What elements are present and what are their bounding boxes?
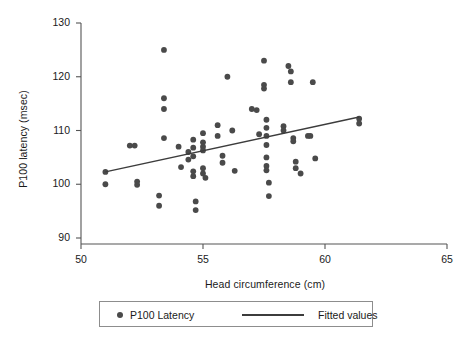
data-point xyxy=(176,144,182,150)
plot-axes xyxy=(81,23,447,244)
data-point xyxy=(266,193,272,199)
data-point xyxy=(232,168,238,174)
data-point xyxy=(103,181,109,187)
y-tick-label: 100 xyxy=(40,177,70,189)
data-point xyxy=(293,159,299,165)
x-axis-label: Head circumference (cm) xyxy=(150,278,380,290)
data-point-group xyxy=(103,47,363,213)
data-point xyxy=(249,106,255,112)
x-tick-label: 60 xyxy=(310,253,340,265)
data-point xyxy=(307,133,313,139)
data-point xyxy=(200,165,206,171)
data-point xyxy=(161,135,167,141)
data-point xyxy=(193,199,199,205)
x-axis-ticks xyxy=(81,244,447,249)
data-point xyxy=(286,63,292,69)
data-point xyxy=(229,128,235,134)
data-point xyxy=(220,153,226,159)
data-point xyxy=(298,171,304,177)
data-point xyxy=(161,95,167,101)
data-point xyxy=(203,175,209,181)
x-tick-label: 65 xyxy=(432,253,462,265)
data-point xyxy=(254,107,260,113)
data-point xyxy=(225,74,231,80)
data-point xyxy=(310,79,316,85)
y-axis-ticks xyxy=(76,23,81,238)
data-point xyxy=(264,117,270,123)
data-point xyxy=(256,131,262,137)
data-point xyxy=(220,160,226,166)
data-point xyxy=(293,165,299,171)
data-point xyxy=(264,125,270,131)
data-point xyxy=(215,122,221,128)
data-point xyxy=(200,130,206,136)
data-point xyxy=(356,121,362,127)
data-point xyxy=(264,167,270,173)
legend-line-label: Fitted values xyxy=(318,309,378,321)
legend-line-swatch-icon xyxy=(242,314,304,316)
data-point xyxy=(312,156,318,162)
data-point xyxy=(261,86,267,92)
data-point xyxy=(193,207,199,213)
y-axis-label: P100 latency (msec) xyxy=(17,69,29,209)
legend-point-label: P100 Latency xyxy=(130,309,194,321)
fitted-line xyxy=(105,117,359,172)
data-point xyxy=(178,164,184,170)
data-point xyxy=(132,143,138,149)
data-point xyxy=(264,142,270,148)
data-point xyxy=(261,58,267,64)
data-point xyxy=(190,137,196,143)
data-point xyxy=(134,182,140,188)
data-point xyxy=(185,157,191,163)
fitted-regression-line xyxy=(105,117,359,172)
data-point xyxy=(156,203,162,209)
data-point xyxy=(290,138,296,144)
data-point xyxy=(264,154,270,160)
data-point xyxy=(161,47,167,53)
chart-figure: P100 latency (msec) Head circumference (… xyxy=(0,0,467,340)
data-point xyxy=(266,180,272,186)
chart-legend: P100 Latency Fitted values xyxy=(99,301,373,327)
data-point xyxy=(288,79,294,85)
x-tick-label: 55 xyxy=(188,253,218,265)
x-tick-label: 50 xyxy=(66,253,96,265)
data-point xyxy=(161,106,167,112)
y-tick-label: 120 xyxy=(40,70,70,82)
y-tick-label: 110 xyxy=(40,124,70,136)
data-point xyxy=(190,145,196,151)
data-point xyxy=(215,133,221,139)
data-point xyxy=(156,193,162,199)
data-point xyxy=(190,153,196,159)
legend-point-marker-icon xyxy=(117,312,123,318)
y-tick-label: 90 xyxy=(40,231,70,243)
data-point xyxy=(190,173,196,179)
y-tick-label: 130 xyxy=(40,16,70,28)
data-point xyxy=(288,68,294,74)
